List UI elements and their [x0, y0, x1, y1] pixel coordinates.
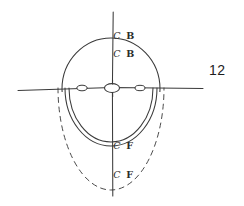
label-cb-lower: CB — [100, 39, 135, 68]
figure-number: 12 — [209, 62, 226, 78]
label-cb-lower-first: C — [113, 48, 121, 59]
label-cf-lower: CF — [100, 160, 133, 189]
ellipse-center-marker — [105, 84, 120, 93]
ellipse-left-marker — [77, 85, 87, 91]
label-cf-lower-first: C — [113, 169, 121, 180]
figure-container: CB CB CF CF 12 — [0, 0, 244, 206]
label-cf-upper: CF — [100, 131, 133, 160]
label-cf-upper-first: C — [113, 140, 121, 151]
label-cf-lower-second: F — [126, 169, 133, 180]
ellipse-right-marker — [135, 85, 145, 90]
label-cf-upper-second: F — [126, 140, 133, 151]
label-cb-lower-second: B — [126, 48, 134, 59]
